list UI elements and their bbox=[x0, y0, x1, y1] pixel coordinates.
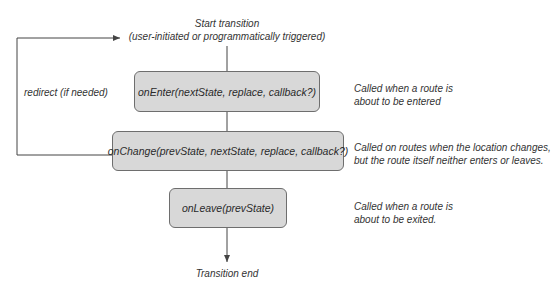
start-transition-title: Start transition bbox=[127, 17, 327, 30]
onchange-description-line1: Called on routes when the location chang… bbox=[354, 141, 551, 154]
onenter-hook-box: onEnter(nextState, replace, callback?) bbox=[134, 71, 320, 112]
onleave-description: Called when a route is about to be exite… bbox=[354, 200, 453, 226]
onenter-description-line1: Called when a route is bbox=[354, 82, 453, 95]
onchange-signature: onChange(prevState, nextState, replace, … bbox=[108, 145, 348, 157]
onenter-signature: onEnter(nextState, replace, callback?) bbox=[138, 86, 316, 98]
onchange-description: Called on routes when the location chang… bbox=[354, 141, 551, 167]
redirect-label: redirect (if needed) bbox=[24, 86, 108, 99]
onchange-description-line2: but the route itself neither enters or l… bbox=[354, 154, 551, 167]
onleave-description-line1: Called when a route is bbox=[354, 200, 453, 213]
onleave-hook-box: onLeave(prevState) bbox=[169, 188, 287, 228]
onchange-hook-box: onChange(prevState, nextState, replace, … bbox=[112, 131, 344, 171]
start-transition-subtitle: (user-initiated or programmatically trig… bbox=[117, 30, 337, 43]
transition-end-label: Transition end bbox=[177, 267, 277, 280]
onenter-description-line2: about to be entered bbox=[354, 95, 453, 108]
onleave-signature: onLeave(prevState) bbox=[182, 202, 274, 214]
onenter-description: Called when a route is about to be enter… bbox=[354, 82, 453, 108]
onleave-description-line2: about to be exited. bbox=[354, 213, 453, 226]
